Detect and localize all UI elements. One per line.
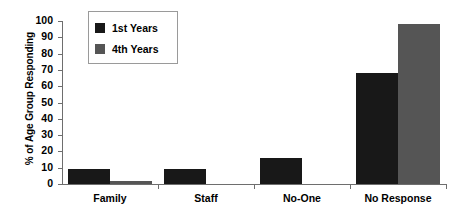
y-axis-tick: 10: [58, 168, 63, 169]
x-axis-tick: [254, 184, 255, 189]
bar: [164, 169, 206, 184]
y-axis-tick: 50: [58, 103, 63, 104]
legend-item: 1st Years: [95, 19, 177, 37]
y-axis-tick-label: 0: [47, 177, 53, 189]
bar: [110, 181, 152, 184]
x-axis-tick: [350, 184, 351, 189]
y-axis-tick-label: 80: [41, 47, 53, 59]
x-axis-tick: [446, 184, 447, 189]
x-axis-category-label: Staff: [194, 192, 217, 204]
y-axis-tick: 80: [58, 54, 63, 55]
legend-swatch-icon: [95, 44, 105, 54]
bar: [68, 169, 110, 184]
x-axis-category-label: No Response: [364, 192, 431, 204]
y-axis-tick-label: 100: [35, 14, 53, 26]
y-axis-title: % of Age Group Responding: [24, 9, 35, 189]
bar: [260, 158, 302, 184]
bar: [398, 24, 440, 184]
legend-swatch-icon: [95, 23, 105, 33]
y-axis-line: [62, 22, 63, 185]
x-axis-category-label: Family: [93, 192, 126, 204]
y-axis-tick-label: 10: [41, 161, 53, 173]
y-axis-tick: 90: [58, 37, 63, 38]
y-axis-tick: 100: [58, 21, 63, 22]
bar: [356, 73, 398, 184]
y-axis-tick-label: 30: [41, 128, 53, 140]
x-axis-tick: [158, 184, 159, 189]
y-axis-tick: 0: [58, 184, 63, 185]
legend-item: 4th Years: [95, 40, 177, 58]
legend-item-label: 4th Years: [112, 43, 159, 55]
y-axis-tick: 70: [58, 70, 63, 71]
y-axis-tick-label: 20: [41, 144, 53, 156]
y-axis-tick: 20: [58, 151, 63, 152]
y-axis-tick: 40: [58, 119, 63, 120]
x-axis-category-label: No-One: [283, 192, 321, 204]
y-axis-tick-label: 90: [41, 30, 53, 42]
y-axis-tick-label: 60: [41, 79, 53, 91]
legend-item-label: 1st Years: [112, 22, 158, 34]
y-axis-tick: 30: [58, 135, 63, 136]
y-axis-tick-label: 50: [41, 96, 53, 108]
bar-chart: % of Age Group Responding 10090807060504…: [0, 0, 452, 222]
y-axis-tick-label: 70: [41, 63, 53, 75]
y-axis-tick: 60: [58, 86, 63, 87]
legend: 1st Years4th Years: [88, 11, 178, 64]
y-axis-tick-label: 40: [41, 112, 53, 124]
